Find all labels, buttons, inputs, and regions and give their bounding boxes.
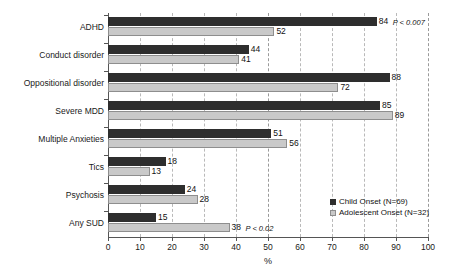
bar-value-label: 15 <box>158 213 167 222</box>
legend-swatch-icon <box>330 199 336 205</box>
x-axis-title-text: % <box>264 256 272 266</box>
bar-oppositional-disorder-adolescent-onset <box>108 83 338 92</box>
x-axis-title: % <box>0 256 456 266</box>
bar-value-label: 89 <box>395 111 404 120</box>
x-axis-tick-label-20: 20 <box>167 242 176 252</box>
bar-chart: ADHDConduct disorderOppositional disorde… <box>0 0 456 275</box>
y-axis-label-multiple-anxieties: Multiple Anxieties <box>0 134 104 144</box>
x-axis-tick <box>140 237 141 241</box>
x-axis-tick <box>300 237 301 241</box>
bar-tics-child-onset <box>108 157 166 166</box>
x-axis-tick-label-30: 30 <box>199 242 208 252</box>
p-value-annotation: P < 0.007 <box>393 18 425 27</box>
bar-value-label: 24 <box>187 185 196 194</box>
legend-swatch-icon <box>330 210 336 216</box>
y-axis-label-any-sud: Any SUD <box>0 218 104 228</box>
x-axis-tick-label-70: 70 <box>327 242 336 252</box>
bar-oppositional-disorder-child-onset <box>108 73 390 82</box>
x-axis-tick-label-60: 60 <box>295 242 304 252</box>
x-axis-tick <box>332 237 333 241</box>
bar-value-label: 52 <box>276 27 285 36</box>
bar-tics-adolescent-onset <box>108 167 150 176</box>
bar-adhd-adolescent-onset <box>108 27 274 36</box>
bar-severe-mdd-adolescent-onset <box>108 111 393 120</box>
x-axis-tick-label-100: 100 <box>421 242 435 252</box>
legend-item-label: Adolescent Onset (N=32) <box>339 207 429 218</box>
x-axis-tick-label-90: 90 <box>391 242 400 252</box>
bar-psychosis-child-onset <box>108 185 185 194</box>
bar-adhd-child-onset <box>108 17 377 26</box>
legend-item-adolescent-onset: Adolescent Onset (N=32) <box>330 207 429 218</box>
p-value-annotation: P < 0.02 <box>246 224 274 233</box>
bar-value-label: 88 <box>392 73 401 82</box>
bar-value-label: 38 <box>232 223 241 232</box>
x-axis-tick <box>428 237 429 241</box>
bar-value-label: 51 <box>273 129 282 138</box>
gridline-60 <box>300 13 301 237</box>
bar-any-sud-child-onset <box>108 213 156 222</box>
x-axis-tick <box>364 237 365 241</box>
bar-value-label: 28 <box>200 195 209 204</box>
legend-item-label: Child Onset (N=69) <box>339 196 408 207</box>
bar-value-label: 18 <box>168 157 177 166</box>
y-axis-labels: ADHDConduct disorderOppositional disorde… <box>0 13 104 237</box>
bar-severe-mdd-child-onset <box>108 101 380 110</box>
chart-legend: Child Onset (N=69)Adolescent Onset (N=32… <box>330 196 429 218</box>
x-axis-tick-label-50: 50 <box>263 242 272 252</box>
x-axis-tick-label-80: 80 <box>359 242 368 252</box>
bar-value-label: 84 <box>379 17 388 26</box>
bar-value-label: 72 <box>340 83 349 92</box>
x-axis-tick <box>236 237 237 241</box>
y-axis-label-oppositional-disorder: Oppositional disorder <box>0 78 104 88</box>
bar-value-label: 41 <box>241 55 250 64</box>
x-axis-tick-label-10: 10 <box>135 242 144 252</box>
bar-value-label: 13 <box>152 167 161 176</box>
x-axis-tick-label-0: 0 <box>106 242 111 252</box>
bar-value-label: 85 <box>382 101 391 110</box>
x-axis-tick <box>396 237 397 241</box>
bar-multiple-anxieties-child-onset <box>108 129 271 138</box>
gridline-50 <box>268 13 269 237</box>
bar-psychosis-adolescent-onset <box>108 195 198 204</box>
y-axis-label-tics: Tics <box>0 162 104 172</box>
bar-conduct-disorder-adolescent-onset <box>108 55 239 64</box>
y-axis-label-psychosis: Psychosis <box>0 190 104 200</box>
bar-value-label: 44 <box>251 45 260 54</box>
bar-any-sud-adolescent-onset <box>108 223 230 232</box>
y-axis-label-severe-mdd: Severe MDD <box>0 106 104 116</box>
x-axis-tick-label-40: 40 <box>231 242 240 252</box>
bar-conduct-disorder-child-onset <box>108 45 249 54</box>
legend-item-child-onset: Child Onset (N=69) <box>330 196 429 207</box>
x-axis-tick <box>204 237 205 241</box>
bar-value-label: 56 <box>289 139 298 148</box>
x-axis-tick <box>108 237 109 241</box>
y-axis-label-conduct-disorder: Conduct disorder <box>0 50 104 60</box>
x-axis-tick <box>268 237 269 241</box>
x-axis-tick <box>172 237 173 241</box>
y-axis-label-adhd: ADHD <box>0 22 104 32</box>
bar-multiple-anxieties-adolescent-onset <box>108 139 287 148</box>
